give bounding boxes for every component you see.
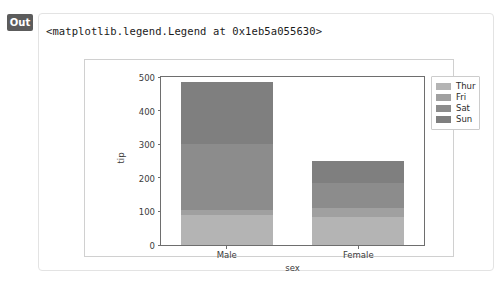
bar-segment-thur [181,215,273,245]
y-tick-mark [158,177,162,178]
legend-swatch-icon [436,105,451,112]
y-tick-mark [158,77,162,78]
y-tick-mark [158,245,162,246]
bar-segment-sun [312,161,404,183]
legend-label: Sat [456,103,470,114]
legend-repr-text: <matplotlib.legend.Legend at 0x1eb5a0556… [46,25,322,37]
chart-legend: ThurFriSatSun [431,76,480,130]
legend-item-fri: Fri [436,92,475,103]
legend-label: Thur [456,81,475,92]
y-tick-mark [158,110,162,111]
output-card: <matplotlib.legend.Legend at 0x1eb5a0556… [38,13,494,271]
legend-item-thur: Thur [436,81,475,92]
legend-label: Fri [456,92,466,103]
notebook-output-cell: Out <matplotlib.legend.Legend at 0x1eb5a… [0,0,501,287]
legend-swatch-icon [436,83,451,90]
output-prompt-badge: Out [7,14,33,31]
bar-segment-fri [181,210,273,215]
y-tick-mark [158,144,162,145]
x-tick-label: Male [217,250,237,260]
y-tick-label: 400 [139,107,155,117]
bar-segment-thur [312,217,404,245]
legend-item-sat: Sat [436,103,475,114]
y-tick-label: 300 [139,140,155,150]
bar-segment-sat [312,183,404,208]
x-tick-mark [226,245,227,249]
plot-region [161,77,424,245]
y-tick-mark [158,211,162,212]
matplotlib-figure: tip sex 0100200300400500MaleFemale ThurF… [84,59,454,257]
legend-label: Sun [456,114,472,125]
legend-item-sun: Sun [436,114,475,125]
bar-segment-fri [312,208,404,217]
y-tick-label: 100 [139,207,155,217]
x-tick-label: Female [343,250,374,260]
bar-segment-sun [181,82,273,144]
stacked-bar [181,77,273,245]
legend-swatch-icon [436,94,451,101]
y-axis-label: tip [116,152,126,163]
x-tick-mark [358,245,359,249]
x-axis-label: sex [160,263,425,273]
bar-segment-sat [181,144,273,210]
plot-axes: 0100200300400500MaleFemale [160,76,425,246]
y-tick-label: 0 [150,241,155,251]
legend-swatch-icon [436,116,451,123]
stacked-bar [312,77,404,245]
y-tick-label: 500 [139,73,155,83]
y-tick-label: 200 [139,174,155,184]
